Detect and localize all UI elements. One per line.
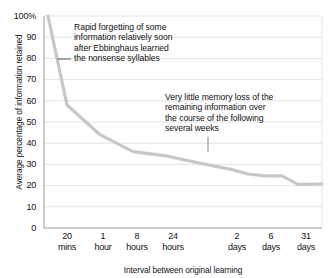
x-tick-8-hours-unit: hours (122, 242, 152, 253)
forgetting-curve-chart: 100% 90 80 70 60 50 40 30 20 10 0 20 min… (0, 0, 328, 278)
x-tick-20-mins: 20 mins (52, 231, 82, 252)
x-tick-1-hour: 1 hour (88, 231, 118, 252)
x-tick-6-days: 6 days (256, 231, 286, 252)
x-tick-31-days-value: 31 (290, 231, 322, 242)
x-tick-31-days-unit: days (290, 242, 322, 253)
x-tick-20-mins-unit: mins (52, 242, 82, 253)
x-axis-title: Interval between original learning (44, 265, 322, 275)
annotation-rapid-forgetting: Rapid forgetting of some information rel… (74, 22, 172, 64)
x-tick-1-hour-value: 1 (88, 231, 118, 242)
x-tick-24-hours-value: 24 (157, 231, 189, 242)
x-tick-8-hours-value: 8 (122, 231, 152, 242)
x-tick-2-days-unit: days (222, 242, 252, 253)
x-tick-8-hours: 8 hours (122, 231, 152, 252)
x-tick-2-days: 2 days (222, 231, 252, 252)
x-tick-2-days-value: 2 (222, 231, 252, 242)
x-tick-31-days: 31 days (290, 231, 322, 252)
x-tick-24-hours-unit: hours (157, 242, 189, 253)
x-tick-20-mins-value: 20 (52, 231, 82, 242)
annotation-little-memory-loss: Very little memory loss of the remaining… (165, 92, 273, 134)
x-tick-6-days-value: 6 (256, 231, 286, 242)
y-axis-title: Average percentage of information retain… (14, 12, 24, 212)
x-tick-1-hour-unit: hour (88, 242, 118, 253)
x-tick-24-hours: 24 hours (157, 231, 189, 252)
y-tick-0: 0 (0, 223, 36, 233)
x-tick-6-days-unit: days (256, 242, 286, 253)
